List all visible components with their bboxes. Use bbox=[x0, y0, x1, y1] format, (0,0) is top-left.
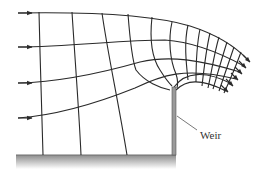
streamlines bbox=[18, 13, 248, 118]
weir-label: Weir bbox=[200, 130, 221, 141]
streamline-4 bbox=[18, 73, 236, 118]
equipotential-6 bbox=[170, 22, 178, 88]
ground bbox=[16, 155, 176, 169]
streamline-6 bbox=[176, 82, 226, 91]
equipotential-3 bbox=[102, 13, 127, 155]
streamline-1 bbox=[18, 13, 248, 60]
inflow-arrows bbox=[18, 13, 32, 118]
equipotential-1 bbox=[39, 12, 43, 155]
equipotential-9 bbox=[202, 33, 210, 86]
equipotential-2 bbox=[72, 12, 81, 155]
equipotential-4 bbox=[128, 14, 170, 90]
equipotential-10 bbox=[208, 37, 219, 88]
equipotential-7 bbox=[186, 25, 188, 80]
streamline-3 bbox=[18, 59, 240, 83]
weir bbox=[172, 87, 176, 155]
flow-net-diagram bbox=[0, 0, 274, 171]
weir-leader-line bbox=[177, 116, 197, 130]
equipotential-13 bbox=[224, 52, 241, 93]
outflow-arrow-icon bbox=[243, 55, 250, 62]
